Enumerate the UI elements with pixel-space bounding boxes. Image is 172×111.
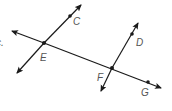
transversal-line — [12, 31, 44, 43]
point-g-dot — [146, 80, 150, 84]
label-g: G — [141, 87, 149, 98]
line-fd-up — [112, 23, 138, 68]
label-e: E — [40, 52, 47, 63]
point-f-dot — [110, 66, 114, 70]
edge-fragment-label: c. — [0, 37, 4, 48]
label-d: D — [136, 37, 143, 48]
diagram-canvas: c. C E D F G — [0, 0, 172, 111]
point-e-dot — [42, 41, 46, 45]
point-d-dot — [130, 32, 134, 36]
label-f: F — [97, 72, 104, 83]
point-c-dot — [68, 14, 72, 18]
label-c: C — [73, 16, 81, 27]
